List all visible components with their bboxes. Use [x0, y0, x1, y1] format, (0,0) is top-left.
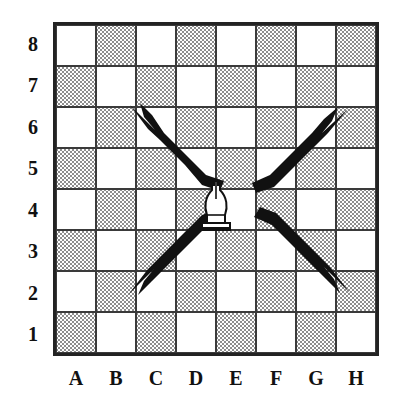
square-A3 [56, 230, 96, 271]
square-F3 [256, 230, 296, 271]
file-label-c: C [136, 362, 176, 394]
square-H1 [336, 312, 376, 353]
square-H3 [336, 230, 376, 271]
square-D6 [176, 107, 216, 148]
square-G6 [296, 107, 336, 148]
square-E3 [216, 230, 256, 271]
square-D7 [176, 66, 216, 107]
square-D3 [176, 230, 216, 271]
square-B7 [96, 66, 136, 107]
square-A7 [56, 66, 96, 107]
square-B6 [96, 107, 136, 148]
file-label-h: H [336, 362, 376, 394]
square-D4 [176, 189, 216, 230]
square-H2 [336, 271, 376, 312]
square-C5 [136, 148, 176, 189]
rank-label-3: 3 [18, 231, 48, 273]
square-B8 [96, 25, 136, 66]
square-E4 [216, 189, 256, 230]
chess-diagram: 8 7 6 5 4 3 2 1 [0, 0, 418, 409]
file-label-a: A [56, 362, 96, 394]
square-H4 [336, 189, 376, 230]
square-C3 [136, 230, 176, 271]
square-A1 [56, 312, 96, 353]
rank-label-column: 8 7 6 5 4 3 2 1 [18, 23, 48, 355]
square-A2 [56, 271, 96, 312]
square-C4 [136, 189, 176, 230]
board-squares-svg [56, 25, 376, 353]
square-H5 [336, 148, 376, 189]
square-A8 [56, 25, 96, 66]
square-B5 [96, 148, 136, 189]
square-G1 [296, 312, 336, 353]
square-D5 [176, 148, 216, 189]
square-G2 [296, 271, 336, 312]
square-C8 [136, 25, 176, 66]
square-E5 [216, 148, 256, 189]
rank-label-1: 1 [18, 314, 48, 356]
square-D1 [176, 312, 216, 353]
square-C1 [136, 312, 176, 353]
rank-label-6: 6 [18, 106, 48, 148]
square-E1 [216, 312, 256, 353]
rank-label-4: 4 [18, 189, 48, 231]
square-E8 [216, 25, 256, 66]
square-G5 [296, 148, 336, 189]
rank-label-7: 7 [18, 65, 48, 107]
file-label-f: F [256, 362, 296, 394]
square-D8 [176, 25, 216, 66]
square-C7 [136, 66, 176, 107]
square-B3 [96, 230, 136, 271]
file-label-row: A B C D E F G H [56, 362, 376, 394]
square-C2 [136, 271, 176, 312]
rank-label-5: 5 [18, 148, 48, 190]
chessboard-squares [56, 25, 376, 353]
square-B4 [96, 189, 136, 230]
square-F1 [256, 312, 296, 353]
square-F8 [256, 25, 296, 66]
square-H6 [336, 107, 376, 148]
square-E2 [216, 271, 256, 312]
file-label-b: B [96, 362, 136, 394]
square-F5 [256, 148, 296, 189]
square-C6 [136, 107, 176, 148]
square-A4 [56, 189, 96, 230]
square-F7 [256, 66, 296, 107]
square-G3 [296, 230, 336, 271]
square-D2 [176, 271, 216, 312]
square-E6 [216, 107, 256, 148]
square-G8 [296, 25, 336, 66]
square-F4 [256, 189, 296, 230]
square-H8 [336, 25, 376, 66]
square-H7 [336, 66, 376, 107]
square-F2 [256, 271, 296, 312]
square-G4 [296, 189, 336, 230]
rank-label-8: 8 [18, 23, 48, 65]
file-label-e: E [216, 362, 256, 394]
square-F6 [256, 107, 296, 148]
square-B1 [96, 312, 136, 353]
chessboard [53, 22, 379, 356]
file-label-d: D [176, 362, 216, 394]
square-A6 [56, 107, 96, 148]
file-label-g: G [296, 362, 336, 394]
square-G7 [296, 66, 336, 107]
square-E7 [216, 66, 256, 107]
square-A5 [56, 148, 96, 189]
square-B2 [96, 271, 136, 312]
rank-label-2: 2 [18, 272, 48, 314]
